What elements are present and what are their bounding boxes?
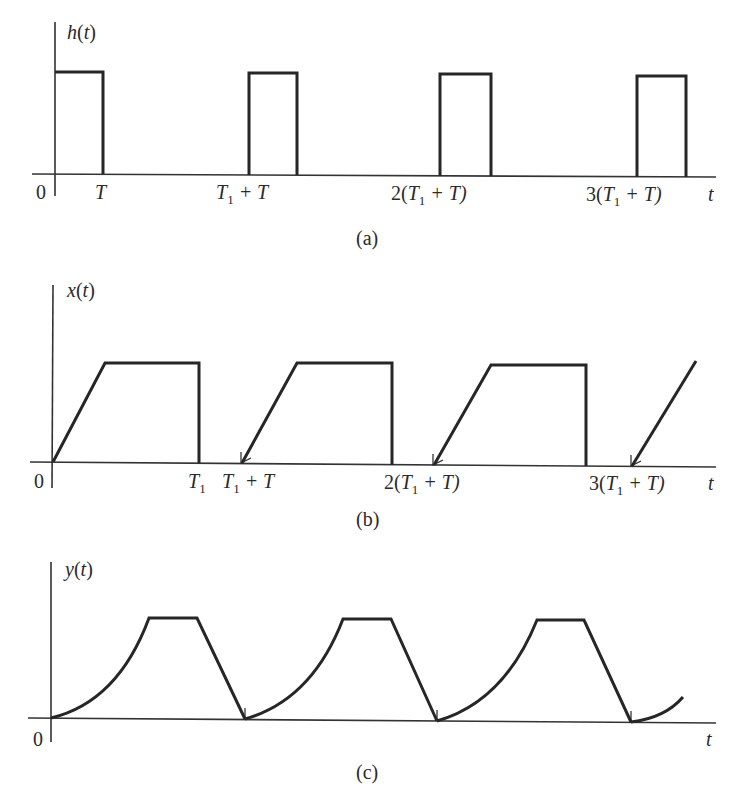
panel-b-origin-label: 0 xyxy=(34,470,44,492)
panel-c: y(t) 0 t (c) xyxy=(28,558,716,784)
panel-b-y-label: x(t) xyxy=(66,279,95,302)
panel-c-caption: (c) xyxy=(356,761,378,784)
panel-a-y-label: h(t) xyxy=(67,21,96,44)
panel-c-x-label: t xyxy=(706,728,712,750)
panel-a-x-label: t xyxy=(708,183,714,205)
panel-b-tick-T1: T1 xyxy=(188,470,206,496)
panel-c-origin-label: 0 xyxy=(33,728,43,750)
panel-b-y-axis xyxy=(52,285,53,488)
panel-b-tick-3-T1-plus-T: 3(T1 + T) xyxy=(589,472,665,498)
panel-a: h(t) 0 T T1 + T 2(T1 + T) 3(T1 + T) t (a… xyxy=(32,21,716,250)
panel-a-x-axis xyxy=(32,174,716,177)
figure-canvas: h(t) 0 T T1 + T 2(T1 + T) 3(T1 + T) t (a… xyxy=(0,0,742,800)
panel-b-tick-2-T1-plus-T: 2(T1 + T) xyxy=(384,471,460,497)
panel-b-tick-T1-plus-T: T1 + T xyxy=(222,470,276,496)
panel-b-x-axis xyxy=(30,462,716,467)
panel-c-signal-y xyxy=(51,618,683,722)
panel-c-y-label: y(t) xyxy=(63,558,93,581)
panel-b-x-label: t xyxy=(708,472,714,494)
panel-c-x-axis xyxy=(28,718,716,723)
panel-b-signal-x xyxy=(53,361,696,466)
panel-a-tick-T1-plus-T: T1 + T xyxy=(216,181,270,207)
panel-a-tick-3-T1-plus-T: 3(T1 + T) xyxy=(586,183,662,209)
panel-a-origin-label: 0 xyxy=(36,181,46,203)
panel-a-signal-h xyxy=(55,72,686,177)
panel-b-caption: (b) xyxy=(356,508,379,531)
panel-a-tick-2-T1-plus-T: 2(T1 + T) xyxy=(391,182,467,208)
panel-b: x(t) 0 T1 T1 + T 2(T1 + T) 3(T1 + T) t (… xyxy=(30,279,716,531)
panel-a-tick-T: T xyxy=(95,181,108,203)
panel-a-caption: (a) xyxy=(356,227,378,250)
